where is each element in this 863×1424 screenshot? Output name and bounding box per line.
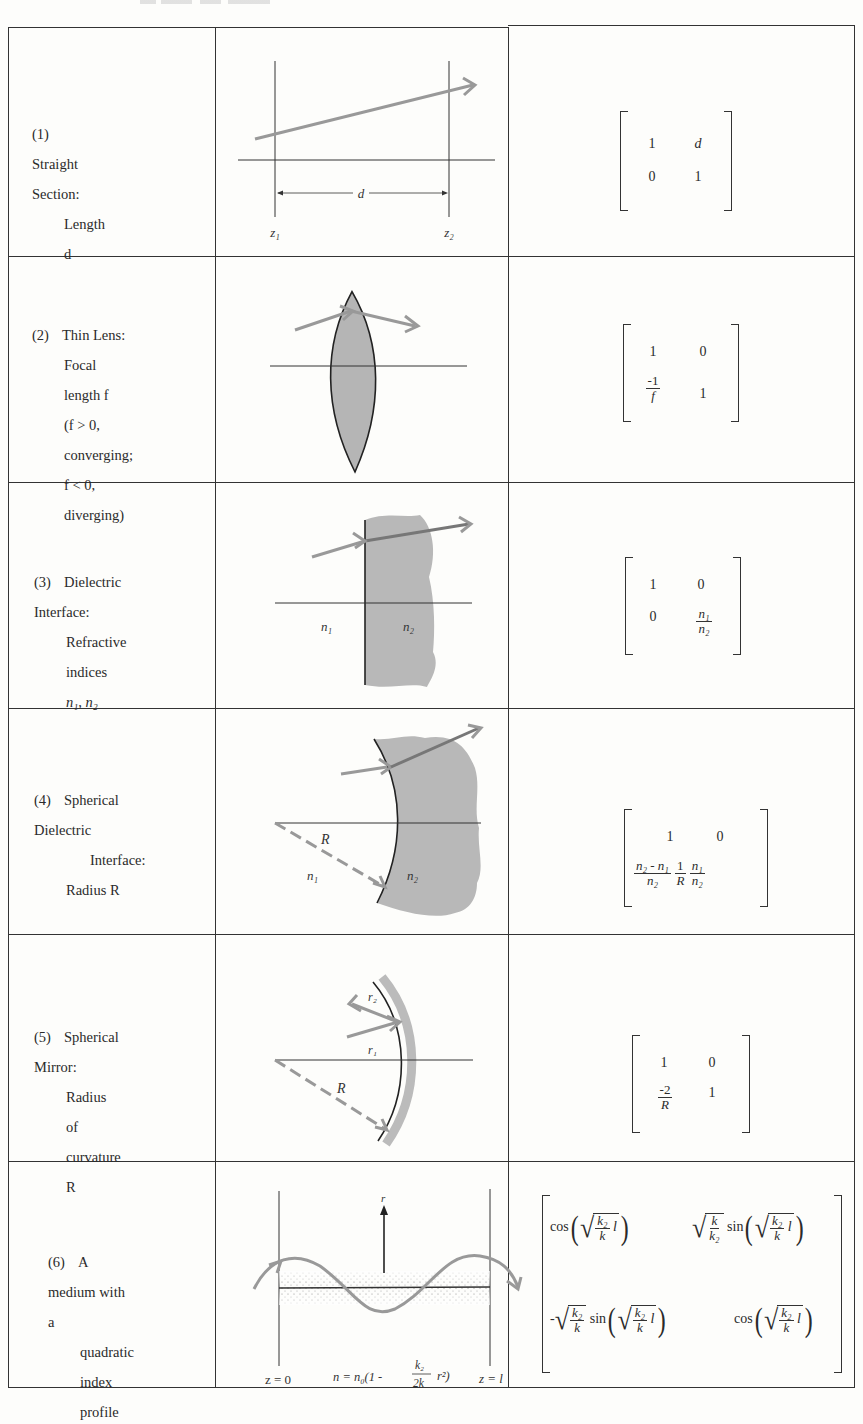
n2-label: n₂ — [407, 868, 419, 883]
r2-label: r₂ — [368, 990, 377, 1004]
matrix-b: d — [688, 136, 708, 152]
sqrt: √k₂k — [555, 1305, 587, 1334]
left-bracket — [632, 1035, 640, 1133]
fraction-denominator: n₂ — [690, 874, 705, 888]
right-paren: ) — [621, 1211, 629, 1245]
right-bracket — [733, 557, 741, 655]
index-formula-prefix: n = n₀(1 - — [333, 1370, 382, 1384]
n2-label: n₂ — [403, 619, 415, 634]
left-bracket — [624, 809, 632, 907]
sqrt: √k₂k l — [580, 1213, 619, 1242]
length-var: l — [788, 1220, 792, 1235]
row-number: (2) — [32, 320, 62, 350]
row-number: (5) — [34, 1022, 64, 1052]
matrix-b: 0 — [691, 344, 715, 360]
right-paren: ) — [658, 1303, 666, 1337]
fraction-numerator: 1 — [675, 859, 686, 874]
radical-icon: √ — [764, 1306, 778, 1335]
row-detail: Interface: — [34, 845, 146, 875]
right-bracket — [724, 111, 732, 211]
index-formula-numerator: k₂ — [415, 1359, 424, 1371]
row-title: Straight Section: — [32, 156, 80, 202]
n1-label: n₁ — [307, 868, 318, 883]
d-label: d — [358, 186, 365, 201]
thin-lens-matrix: 1 0 -1f 1 — [623, 324, 739, 422]
quadratic-index-medium-diagram: r z = 0 z = l n = n₀(1 - k₂ 2k r²) — [215, 1161, 515, 1387]
matrix-a: 1 — [641, 577, 665, 593]
left-bracket — [620, 111, 628, 211]
matrix-b: 0 — [700, 1055, 724, 1071]
rule — [508, 25, 855, 26]
row-detail: Radius of curvature R — [34, 1082, 121, 1202]
sqrt: √kk₂ — [692, 1213, 724, 1242]
fraction-denominator: k — [782, 1321, 792, 1335]
sqrt: √k₂k l — [764, 1305, 803, 1334]
matrix-c: 0 — [642, 169, 662, 185]
row-detail: quadratic index — [48, 1337, 134, 1397]
R-label: R — [336, 1081, 346, 1096]
fraction-denominator: k — [635, 1321, 645, 1335]
fraction-denominator: R — [674, 874, 686, 888]
dielectric-interface-diagram: n₁ n₂ — [215, 482, 508, 708]
row-4-description: (4)Spherical Dielectric Interface: Radiu… — [34, 785, 146, 905]
fraction-numerator: n₂ - n₁ — [634, 859, 671, 874]
right-bracket — [834, 1195, 842, 1373]
z2-label: z₂ — [443, 225, 454, 240]
sin-function: sin — [727, 1219, 743, 1234]
left-paren: ( — [608, 1303, 616, 1337]
left-paren: ( — [745, 1211, 753, 1245]
left-bracket — [623, 324, 631, 422]
fraction-denominator: k — [598, 1229, 608, 1243]
row-detail: profile — [48, 1397, 134, 1424]
index-formula-suffix: r²) — [437, 1369, 450, 1383]
fraction-numerator: -2 — [658, 1083, 673, 1098]
left-bracket — [542, 1195, 550, 1373]
thin-lens-diagram — [215, 256, 508, 482]
z0-label: z = 0 — [265, 1372, 291, 1387]
fraction-denominator: R — [659, 1098, 671, 1112]
cos-function: cos — [550, 1219, 569, 1234]
fraction-numerator: k₂ — [633, 1306, 647, 1321]
length-var: l — [613, 1220, 617, 1235]
dielectric-interface-matrix: 1 0 0 n₁n₂ — [625, 557, 741, 655]
zl-label: z = l — [478, 1371, 503, 1386]
fraction-denominator: f — [649, 389, 657, 403]
row-number: (4) — [34, 785, 64, 815]
cos-function: cos — [734, 1311, 753, 1326]
matrix-a: cos(√k₂k l) — [550, 1211, 630, 1245]
row-detail: n₁, n₂ — [34, 687, 126, 717]
row-detail: f < 0, diverging) — [32, 470, 133, 530]
fraction-numerator: k₂ — [779, 1306, 793, 1321]
matrix-d: cos(√k₂k l) — [734, 1303, 814, 1337]
r-axis-label: r — [381, 1192, 386, 1204]
radical-icon: √ — [580, 1214, 594, 1243]
radical-icon: √ — [755, 1214, 769, 1243]
radical-icon: √ — [692, 1214, 706, 1243]
spherical-mirror-diagram: r₂ r₁ R — [215, 934, 508, 1161]
matrix-d: 1 — [688, 169, 708, 185]
fraction-numerator: n₁ — [690, 859, 705, 874]
row-1-description: (1)Straight Section: Length d — [32, 119, 105, 269]
left-paren: ( — [754, 1303, 762, 1337]
rule — [8, 1387, 855, 1388]
fraction-denominator: k — [572, 1321, 582, 1335]
row-detail: (f > 0, converging; — [32, 410, 133, 470]
spherical-dielectric-interface-diagram: R n₁ n₂ — [215, 708, 508, 934]
left-paren: ( — [570, 1211, 578, 1245]
row-number: (6) — [48, 1247, 78, 1277]
row-title: Thin Lens: — [62, 327, 125, 343]
sqrt: √k₂k l — [755, 1213, 794, 1242]
fraction-denominator: k — [772, 1229, 782, 1243]
length-var: l — [651, 1312, 655, 1327]
matrix-b: 0 — [689, 577, 713, 593]
matrix-b: 0 — [708, 829, 732, 845]
sin-function: sin — [590, 1311, 606, 1326]
matrix-d: n₁n₂ — [689, 607, 719, 635]
spherical-dielectric-interface-matrix: 1 0 n₂ - n₁n₂ 1R n₁n₂ — [624, 809, 768, 907]
radical-icon: √ — [617, 1306, 631, 1335]
quadratic-medium-matrix: cos(√k₂k l) √kk₂ sin(√k₂k l) -√k₂k sin(√… — [542, 1195, 842, 1373]
row-number: (3) — [34, 567, 64, 597]
fraction-denominator: n₂ — [645, 874, 660, 888]
matrix-d: 1 — [691, 386, 715, 402]
row-detail: Refractive indices — [34, 627, 126, 687]
